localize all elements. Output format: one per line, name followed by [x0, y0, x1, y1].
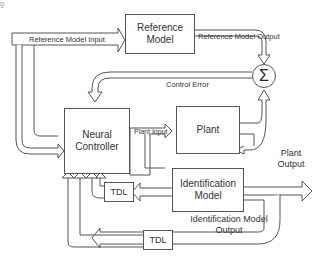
tdl-top-label: TDL: [110, 186, 127, 198]
control-error-label: Control Error: [166, 80, 209, 89]
summing-junction: Σ: [252, 64, 276, 88]
reference-model-block: Reference Model: [125, 14, 195, 54]
identification-model-output-label: Identification Model Output: [184, 214, 274, 236]
neural-controller-block: Neural Controller: [64, 108, 130, 174]
reference-model-label: Reference Model: [126, 22, 194, 46]
plant-output-label: Plant Output: [276, 148, 306, 170]
identification-model-label: Identification Model: [178, 178, 238, 202]
neural-controller-label: Neural Controller: [72, 129, 122, 153]
tdl-top-block: TDL: [104, 182, 134, 202]
plant-label: Plant: [197, 124, 220, 136]
sigma-icon: Σ: [259, 67, 269, 85]
reference-model-input-label: Reference Model Input: [29, 35, 105, 44]
plant-block: Plant: [176, 106, 240, 154]
tdl-bottom-block: TDL: [143, 230, 173, 250]
identification-model-block: Identification Model: [172, 168, 244, 212]
reference-model-output-label: Reference Model Output: [198, 32, 280, 41]
tdl-bottom-label: TDL: [149, 234, 166, 246]
plant-output-arrow: [236, 90, 270, 154]
plant-input-label: Plant Input: [134, 128, 167, 135]
reference-input-branch-arrow: [16, 45, 64, 158]
